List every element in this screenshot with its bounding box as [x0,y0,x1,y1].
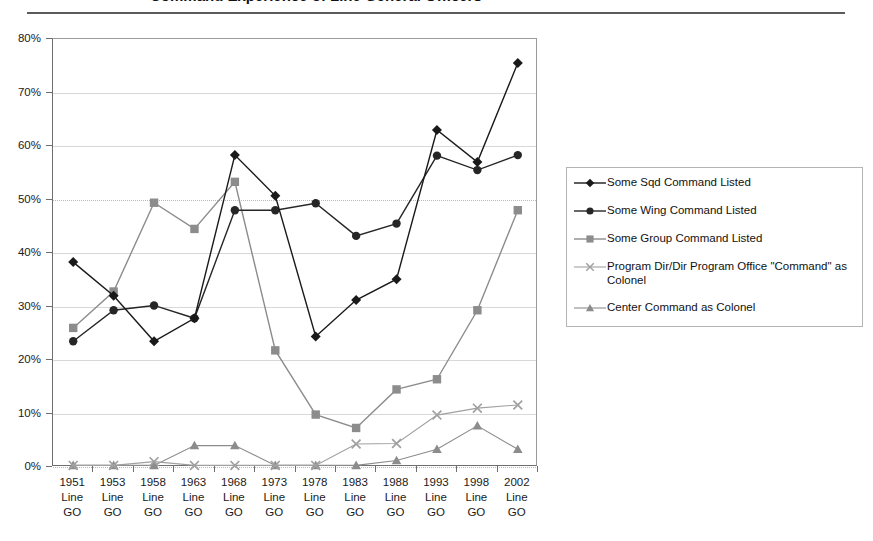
data-point-circle [392,219,400,227]
data-point-triangle [513,445,523,454]
x-axis-tick-year: 1951 [59,476,85,488]
series-line [73,426,518,466]
data-point-triangle [473,421,483,430]
x-axis-tick-year: 1953 [100,476,126,488]
x-axis-tick-line2: Line [102,491,124,503]
series-line [73,182,518,428]
data-point-circle [231,206,239,214]
x-axis-tick-line2: Line [183,491,205,503]
data-point-circle [352,232,360,240]
data-point-diamond [392,274,402,284]
data-point-square [514,206,522,214]
x-axis-tick-mark [92,466,93,472]
y-axis-tick-label: 50% [18,193,41,205]
x-axis-tick-year: 1968 [221,476,247,488]
data-point-circle [109,306,117,314]
plot-area [52,38,537,466]
x-axis-tick-line3: GO [346,506,364,518]
x-axis-tick-mark [456,466,457,472]
data-point-triangle [432,445,442,454]
x-axis-tick-line2: Line [142,491,164,503]
legend-item-label: Some Group Command Listed [607,231,762,245]
legend-item[interactable]: Center Command as Colonel [573,300,856,315]
legend-item-label: Center Command as Colonel [607,300,755,314]
series-line [73,63,518,341]
x-axis-tick-year: 1978 [302,476,328,488]
data-point-square [392,385,400,393]
data-point-square [352,424,360,432]
data-point-square [150,199,158,207]
x-axis: 1951LineGO1953LineGO1958LineGO1963LineGO… [52,466,537,538]
x-axis-tick-line3: GO [427,506,445,518]
x-axis-tick-year: 1998 [464,476,490,488]
x-axis-tick-line2: Line [425,491,447,503]
y-axis-tick-label: 0% [24,460,41,472]
x-axis-tick-line2: Line [506,491,528,503]
data-point-square [231,178,239,186]
y-axis-tick-label: 80% [18,32,41,44]
x-axis-tick-line3: GO [265,506,283,518]
x-axis-tick-year: 1963 [181,476,207,488]
y-axis: 0%10%20%30%40%50%60%70%80% [0,38,52,466]
x-axis-tick-mark [335,466,336,472]
x-axis-tick-line2: Line [61,491,83,503]
x-axis-tick-year: 1973 [261,476,287,488]
series-canvas [53,39,538,467]
x-axis-tick-line3: GO [225,506,243,518]
x-axis-tick-mark [173,466,174,472]
data-point-square [312,410,320,418]
legend-item[interactable]: Program Dir/Dir Program Office "Command"… [573,259,856,287]
x-axis-tick-line2: Line [344,491,366,503]
legend-item[interactable]: Some Sqd Command Listed [573,175,856,190]
x-axis-tick-line3: GO [467,506,485,518]
x-axis-tick-mark [133,466,134,472]
x-axis-tick-line3: GO [387,506,405,518]
x-axis-tick-line2: Line [263,491,285,503]
x-axis-tick-label: 2002LineGO [504,475,530,520]
x-axis-tick-mark [295,466,296,472]
x-axis-tick-label: 1988LineGO [383,475,409,520]
page-title: Command Experience of Line General Offic… [150,0,482,4]
legend-item[interactable]: Some Group Command Listed [573,231,856,246]
x-axis-tick-line3: GO [306,506,324,518]
data-point-circle [150,301,158,309]
x-axis-tick-line3: GO [63,506,81,518]
legend-item[interactable]: Some Wing Command Listed [573,203,856,218]
series-line [73,155,518,341]
x-axis-tick-line2: Line [385,491,407,503]
data-point-circle [473,166,481,174]
series-triangle [68,421,522,469]
x-axis-tick-label: 1978LineGO [302,475,328,520]
x-axis-tick-mark [375,466,376,472]
x-axis-tick-label: 1958LineGO [140,475,166,520]
circle-marker-icon [573,204,607,218]
series-cross [69,401,522,470]
x-axis-tick-year: 1993 [423,476,449,488]
x-axis-tick-year: 1983 [342,476,368,488]
x-axis-tick-label: 1998LineGO [464,475,490,520]
legend-item-label: Some Sqd Command Listed [607,175,751,189]
header-divider [27,12,845,14]
data-point-square [271,346,279,354]
data-point-circle [514,151,522,159]
x-axis-tick-label: 1951LineGO [59,475,85,520]
x-axis-tick-mark [537,466,538,472]
x-axis-tick-mark [416,466,417,472]
data-point-square [473,306,481,314]
y-axis-tick-label: 40% [18,246,41,258]
series-diamond [68,58,523,346]
data-point-square [433,375,441,383]
legend-item-label: Program Dir/Dir Program Office "Command"… [607,259,856,287]
x-axis-tick-line3: GO [104,506,122,518]
data-point-square [190,225,198,233]
chart-legend: Some Sqd Command ListedSome Wing Command… [566,167,863,327]
x-axis-tick-line3: GO [144,506,162,518]
y-axis-tick-label: 30% [18,300,41,312]
x-axis-tick-line2: Line [223,491,245,503]
x-axis-tick-mark [214,466,215,472]
x-axis-tick-year: 1988 [383,476,409,488]
series-circle [69,151,522,346]
y-axis-tick-label: 70% [18,86,41,98]
x-axis-tick-label: 1973LineGO [261,475,287,520]
x-axis-tick-line2: Line [304,491,326,503]
